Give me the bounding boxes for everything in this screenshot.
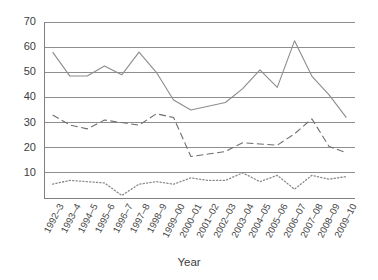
x-axis-title: Year <box>0 256 378 268</box>
y-tick-label: 20 <box>10 142 36 153</box>
y-tick-label: 30 <box>10 117 36 128</box>
axis-lines <box>44 22 355 198</box>
series-line-dashed <box>53 114 347 157</box>
y-tick-label: 10 <box>10 167 36 178</box>
y-tick-label: 40 <box>10 91 36 102</box>
data-series-layer <box>53 41 347 196</box>
y-tick-label: 70 <box>10 16 36 27</box>
series-line-solid <box>53 41 347 118</box>
gridlines <box>44 22 355 173</box>
line-chart: 10203040506070 1992–31993–41994–51995–61… <box>0 0 378 280</box>
series-line-dotted <box>53 173 347 196</box>
y-tick-label: 60 <box>10 41 36 52</box>
y-tick-label: 50 <box>10 66 36 77</box>
